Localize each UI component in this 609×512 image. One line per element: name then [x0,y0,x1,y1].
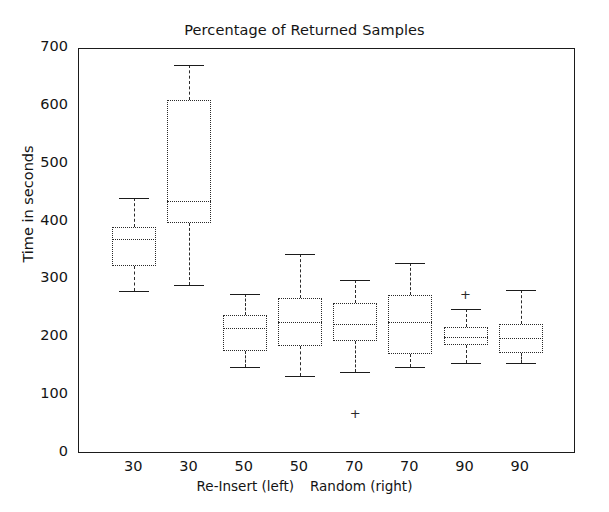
y-tick-label: 600 [22,96,68,112]
whisker-lower [466,345,467,362]
outlier-marker: + [460,291,472,299]
x-axis-caption-right: Random (right) [310,478,412,494]
box-iqr [112,227,156,266]
box-iqr [167,100,211,223]
box-iqr [333,303,377,341]
outlier-marker: + [349,410,361,418]
cap-upper [451,309,481,310]
cap-lower [395,367,425,368]
box-iqr [223,315,267,351]
y-tick-label: 0 [22,443,68,459]
y-tick-label: 400 [22,212,68,228]
y-axis-title: Time in seconds [20,124,36,284]
x-tick-label: 70 [324,458,384,474]
cap-upper [506,290,536,291]
cap-upper [174,65,204,66]
whisker-lower [245,351,246,367]
x-tick-label: 30 [158,458,218,474]
x-axis-caption-left: Re-Insert (left) [197,478,294,494]
whisker-upper [300,254,301,297]
x-tick-label: 70 [379,458,439,474]
box-iqr [388,295,432,354]
whisker-lower [300,346,301,377]
y-tick-label: 100 [22,385,68,401]
x-tick-label: 90 [435,458,495,474]
whisker-lower [134,266,135,291]
box-median-line [112,239,156,240]
box-median-line [388,322,432,323]
whisker-upper [134,198,135,227]
x-tick-label: 30 [103,458,163,474]
y-tick-label: 300 [22,269,68,285]
whisker-upper [245,294,246,315]
y-tick-label: 700 [22,38,68,54]
whisker-upper [521,290,522,324]
cap-lower [285,376,315,377]
cap-lower [506,363,536,364]
chart-title: Percentage of Returned Samples [0,22,609,38]
x-tick-label: 50 [214,458,274,474]
whisker-upper [189,65,190,100]
box-median-line [333,324,377,325]
cap-upper [230,294,260,295]
cap-upper [119,198,149,199]
figure-canvas: Percentage of Returned Samples Time in s… [0,0,609,512]
x-axis-caption: Re-Insert (left)Random (right) [0,478,609,494]
box-median-line [223,328,267,329]
whisker-lower [189,223,190,285]
whisker-lower [410,354,411,367]
plot-area: ++ [78,48,575,453]
cap-lower [340,372,370,373]
box-median-line [444,337,488,338]
box-median-line [167,201,211,202]
cap-upper [285,254,315,255]
box-median-line [499,338,543,339]
whisker-upper [410,263,411,295]
x-tick-label: 90 [490,458,550,474]
cap-upper [395,263,425,264]
whisker-upper [466,309,467,327]
whisker-upper [355,280,356,303]
whisker-lower [521,353,522,363]
x-tick-label: 50 [269,458,329,474]
cap-lower [451,363,481,364]
cap-lower [230,367,260,368]
cap-upper [340,280,370,281]
box-median-line [278,322,322,323]
y-tick-label: 200 [22,327,68,343]
cap-lower [119,291,149,292]
whisker-lower [355,341,356,372]
cap-lower [174,285,204,286]
y-tick-label: 500 [22,154,68,170]
